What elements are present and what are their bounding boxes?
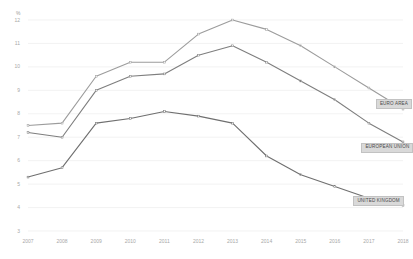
x-axis-tick-label: 2010 [119, 239, 141, 244]
gridlines-group [28, 20, 403, 231]
data-point-marker [163, 73, 165, 75]
x-axis-tick-label: 2011 [153, 239, 175, 244]
data-point-marker [266, 155, 268, 157]
legend-label-european-union[interactable]: EUROPEAN UNION [361, 143, 413, 153]
y-axis-tick-label: 6 [6, 158, 20, 163]
series-lines-group [28, 20, 403, 205]
data-point-marker [300, 174, 302, 176]
data-point-marker [334, 186, 336, 188]
data-point-marker [129, 118, 131, 120]
series-markers-group [27, 19, 404, 206]
data-point-marker [368, 87, 370, 89]
data-point-marker [334, 99, 336, 101]
data-point-marker [95, 89, 97, 91]
data-point-marker [266, 28, 268, 30]
data-point-marker [27, 125, 29, 127]
series-line-european-union [28, 46, 403, 142]
data-point-marker [266, 61, 268, 63]
data-point-marker [61, 122, 63, 124]
data-point-marker [95, 75, 97, 77]
series-line-united-kingdom [28, 111, 403, 205]
data-point-marker [129, 75, 131, 77]
line-chart-plot-area [0, 0, 413, 259]
x-axis-tick-label: 2013 [222, 239, 244, 244]
x-axis-tick-label: 2014 [256, 239, 278, 244]
series-line-euro-area [28, 20, 403, 126]
data-point-marker [368, 122, 370, 124]
data-point-marker [95, 122, 97, 124]
legend-label-euro-area[interactable]: EURO AREA [376, 99, 412, 109]
y-axis-tick-label: 10 [6, 64, 20, 69]
data-point-marker [198, 33, 200, 35]
x-axis-tick-label: 2015 [290, 239, 312, 244]
y-axis-tick-label: 3 [6, 229, 20, 234]
data-point-marker [232, 122, 234, 124]
y-axis-tick-label: 7 [6, 135, 20, 140]
data-point-marker [232, 45, 234, 47]
data-point-marker [27, 176, 29, 178]
y-axis-tick-label: 12 [6, 18, 20, 23]
data-point-marker [163, 111, 165, 113]
data-point-marker [27, 132, 29, 134]
data-point-marker [300, 80, 302, 82]
data-point-marker [198, 115, 200, 117]
data-point-marker [232, 19, 234, 21]
y-axis-tick-label: 4 [6, 205, 20, 210]
data-point-marker [163, 61, 165, 63]
data-point-marker [300, 45, 302, 47]
data-point-marker [198, 54, 200, 56]
x-axis-tick-label: 2017 [358, 239, 380, 244]
x-axis-tick-label: 2012 [187, 239, 209, 244]
data-point-marker [61, 136, 63, 138]
x-axis-tick-label: 2009 [85, 239, 107, 244]
y-axis-tick-label: 11 [6, 41, 20, 46]
x-axis-tick-label: 2007 [17, 239, 39, 244]
data-point-marker [129, 61, 131, 63]
x-axis-tick-label: 2016 [324, 239, 346, 244]
data-point-marker [334, 66, 336, 68]
x-axis-tick-label: 2018 [392, 239, 413, 244]
legend-label-united-kingdom[interactable]: UNITED KINGDOM [353, 196, 403, 206]
y-axis-tick-label: 9 [6, 88, 20, 93]
data-point-marker [61, 167, 63, 169]
y-axis-tick-label: 5 [6, 182, 20, 187]
x-axis-tick-label: 2008 [51, 239, 73, 244]
y-axis-tick-label: 8 [6, 111, 20, 116]
chart-container: % 1211109876543 200720082009201020112012… [0, 0, 413, 259]
